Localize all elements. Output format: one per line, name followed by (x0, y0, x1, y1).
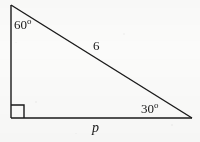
angle-right-value: 30 (141, 101, 154, 116)
angle-top-value: 60 (14, 17, 27, 32)
angle-label-top: 60o (14, 17, 32, 31)
right-angle-marker-icon (11, 105, 24, 118)
triangle-hypotenuse (11, 5, 192, 118)
angle-label-right: 30o (141, 101, 159, 115)
degree-symbol-icon: o (154, 100, 159, 110)
triangle-figure: 60o 30o 6 p (0, 0, 200, 142)
degree-symbol-icon: o (27, 16, 32, 26)
side-label-hypotenuse: 6 (93, 39, 100, 52)
side-label-base: p (92, 121, 99, 135)
